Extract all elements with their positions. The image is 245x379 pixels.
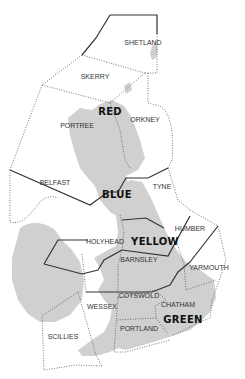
area-label-portland: PORTLAND <box>120 325 158 332</box>
region-label-green: GREEN <box>163 314 202 325</box>
area-label-cotswold: COTSWOLD <box>119 292 159 299</box>
area-label-humber: HUMBER <box>175 225 205 232</box>
region-label-yellow: YELLOW <box>130 236 179 247</box>
area-label-skerry: SKERRY <box>81 73 110 80</box>
area-label-yarmouth: YARMOUTH <box>189 264 229 271</box>
area-label-orkney: ORKNEY <box>130 116 160 123</box>
area-label-wessex: WESSEX <box>87 303 117 310</box>
area-label-scillies: SCILLIES <box>48 333 79 340</box>
area-label-portree: PORTREE <box>60 122 94 129</box>
area-label-holyhead: HOLYHEAD <box>86 238 124 245</box>
region-label-blue: BLUE <box>102 189 132 200</box>
region-label-red: RED <box>98 106 122 117</box>
area-label-shetland: SHETLAND <box>124 39 161 46</box>
area-label-tyne: TYNE <box>153 183 172 190</box>
area-label-belfast: BELFAST <box>40 179 71 186</box>
area-label-chatham: CHATHAM <box>161 301 195 308</box>
area-label-barnsley: BARNSLEY <box>120 256 158 263</box>
labels-layer: SHETLAND SKERRY PORTREE ORKNEY BELFAST T… <box>0 0 245 379</box>
